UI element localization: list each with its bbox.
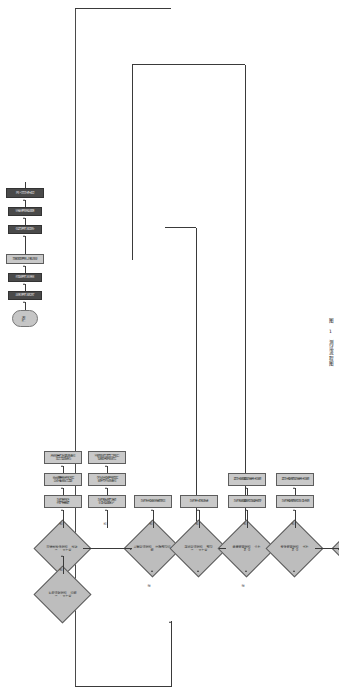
decision-node-b9-label: 可靠性寿命是否 达标 1.0了吗 — [43, 544, 82, 554]
process-node-p6-label: 进入判定流程 — [16, 191, 34, 194]
edge-b8-to-a1 — [63, 556, 64, 574]
edge-b7-to-a1 — [153, 510, 154, 528]
edge-b4-a1-arrow — [293, 509, 295, 511]
edge-b8-yes-arrow — [130, 548, 132, 550]
action-node-b4-a1-label: 记录绝缘电阻异常值 — [282, 500, 309, 503]
decision-node-b6-label: 耐压测试是否 通过 1.0了吗 — [179, 544, 218, 554]
spine-arrow-b4 — [293, 570, 295, 572]
edge-b6-yes-to-b7 — [219, 548, 226, 549]
return-bus-top-link — [132, 65, 133, 260]
edge-label-b8-row-no: 否 — [103, 522, 107, 525]
edge-b9-a2-a3-arrow — [61, 465, 63, 467]
process-node-p4: 启动测试程序 — [8, 225, 42, 234]
action-node-b9-a2: 评估剩余寿命并 制定维护计划 — [44, 473, 82, 486]
process-node-p2-label: 连接测试设备 — [16, 276, 34, 279]
edge-b5-a1-arrow — [245, 509, 247, 511]
decision-node-b6: 耐压测试是否 通过 1.0了吗 — [178, 528, 219, 569]
action-node-b9-a3-label: 输出测试总结报告 并归档保存 — [51, 454, 75, 461]
edge-b7-a1-arrow — [151, 509, 153, 511]
edge-p5-p6 — [25, 200, 26, 207]
edge-p1-p2 — [25, 284, 26, 291]
edge-b9-a1-arrow — [61, 509, 63, 511]
edge-label-b7-yes: 是 — [147, 584, 151, 587]
process-node-p1: 检查测试环境 — [8, 291, 42, 300]
action-node-b5-a1-label: 记录接触电阻超差项 — [234, 500, 261, 503]
secondary-bus-line — [196, 228, 197, 525]
edge-b4-a1-a2-arrow — [293, 487, 295, 489]
action-node-b6-a1: 记录击穿现象 — [180, 495, 218, 508]
edge-p6-to-bus — [25, 182, 26, 188]
spine-arrow-b5 — [245, 570, 247, 572]
edge-b4-to-a1 — [295, 510, 296, 528]
action-node-b8-a2-label: 分析失效原因并 形成分析报告 — [97, 476, 118, 483]
process-node-p4-label: 启动测试程序 — [16, 228, 34, 231]
edge-b8-yes-to-b9 — [83, 548, 132, 549]
edge-p1-p2-arrow — [23, 283, 25, 285]
decision-node-b7: 功能测试是否 全部通过合格 — [132, 528, 173, 569]
edge-junction-p4 — [25, 236, 26, 244]
action-node-b9-a2-label: 评估剩余寿命并 制定维护计划 — [53, 476, 74, 483]
edge-b8-a2-a3 — [107, 466, 108, 473]
edge-start-arrow — [23, 301, 25, 303]
action-node-b8-a1-label: 记录环境试验 异常数据℃ — [98, 498, 116, 505]
action-node-b4-a2-label: 判定绝缘性能不合格 — [282, 478, 309, 481]
action-node-b7-a1: 记录失效功能项目 — [134, 495, 172, 508]
decision-node-b4: 绝缘电阻是否 大于 MΩ — [274, 528, 315, 569]
action-node-b6-a1-label: 记录击穿现象 — [190, 500, 208, 503]
outer-loop-arrowhead — [169, 621, 171, 623]
process-node-p5: 采集测量数据 — [8, 207, 42, 216]
process-node-p5-label: 采集测量数据 — [16, 210, 34, 213]
edge-b8-a2-a3-arrow — [105, 465, 107, 467]
edge-b8-a1-a2 — [107, 488, 108, 495]
edge-b9-a1-a2-arrow — [61, 487, 63, 489]
return-bus-line — [245, 65, 246, 525]
spine-arrow-b7 — [151, 570, 153, 572]
edge-b5-to-a1 — [247, 510, 248, 528]
action-node-b9-a1-label: 记录寿命 衰减曲线 — [57, 498, 69, 505]
action-node-b4-a1: 记录绝缘电阻异常值 — [276, 495, 314, 508]
edge-b6-to-a1 — [199, 510, 200, 528]
action-node-b9-a3: 输出测试总结报告 并归档保存 — [44, 451, 82, 464]
process-node-p3: 读取待测产品信息 — [6, 254, 44, 264]
decision-node-b8: 环境试验是否 合格 1.0了吗 — [42, 574, 83, 615]
outer-loop-bottom-segment — [171, 621, 172, 687]
edge-b9-a1-a2 — [63, 488, 64, 495]
process-node-p1-label: 检查测试环境 — [16, 294, 34, 297]
figure-caption: 图 1 测试流程图 — [327, 318, 333, 408]
return-bus-right-riser — [132, 65, 245, 66]
action-node-b5-a1: 记录接触电阻超差项 — [228, 495, 266, 508]
edge-p2-p3 — [25, 266, 26, 273]
process-node-p3-label: 读取待测产品信息 — [13, 257, 37, 260]
edge-b9-to-a1 — [63, 510, 64, 528]
edge-p4-p5 — [25, 218, 26, 225]
action-node-b8-a3: 返回设计部门进行 结构改进设计 — [88, 451, 126, 464]
edge-b8-row-arrow — [105, 509, 107, 511]
decision-node-b5-label: 接触电阻是否 小于 MΩ — [227, 544, 266, 554]
decision-node-b4-label: 绝缘电阻是否 大于 MΩ — [275, 544, 314, 554]
flowchart-canvas: 开始 检查测试环境 连接测试设备 读取待测产品信息 启动测试程序 — [0, 0, 339, 697]
process-node-p2: 连接测试设备 — [8, 273, 42, 282]
action-node-b8-a2: 分析失效原因并 形成分析报告 — [88, 473, 126, 486]
edge-p5-p6-arrow — [23, 199, 25, 201]
edge-start-to-p1 — [25, 302, 26, 310]
secondary-bus-riser — [165, 228, 196, 229]
action-node-b5-a2: 判定接触性能不合格 — [228, 473, 266, 486]
figure-page: 开始 检查测试环境 连接测试设备 读取待测产品信息 启动测试程序 — [0, 0, 339, 697]
edge-b9-a2-a3 — [63, 466, 64, 473]
edge-b4-yes-to-b5 — [315, 548, 339, 549]
action-node-b5-a2-label: 判定接触性能不合格 — [234, 478, 261, 481]
start-node-label: 开始 — [23, 316, 26, 322]
edge-junction-p4-arrow — [23, 235, 25, 237]
outer-loop-left-segment — [75, 686, 171, 687]
edge-b4-a1-a2 — [295, 488, 296, 495]
edge-p4-p5-arrow — [23, 217, 25, 219]
decision-node-b7-label: 功能测试是否 全部通过合格 — [133, 544, 172, 554]
edge-b6-a1-arrow — [197, 509, 199, 511]
action-node-b9-a1: 记录寿命 衰减曲线 — [44, 495, 82, 508]
edge-p3-junction — [25, 244, 26, 254]
edge-b5-a1-a2-arrow — [245, 487, 247, 489]
spine-arrow-b6 — [197, 570, 199, 572]
action-node-b8-a1: 记录环境试验 异常数据℃ — [88, 495, 126, 508]
edge-p2-p3-arrow — [23, 265, 25, 267]
edge-b8-decision-to-row — [107, 510, 108, 528]
